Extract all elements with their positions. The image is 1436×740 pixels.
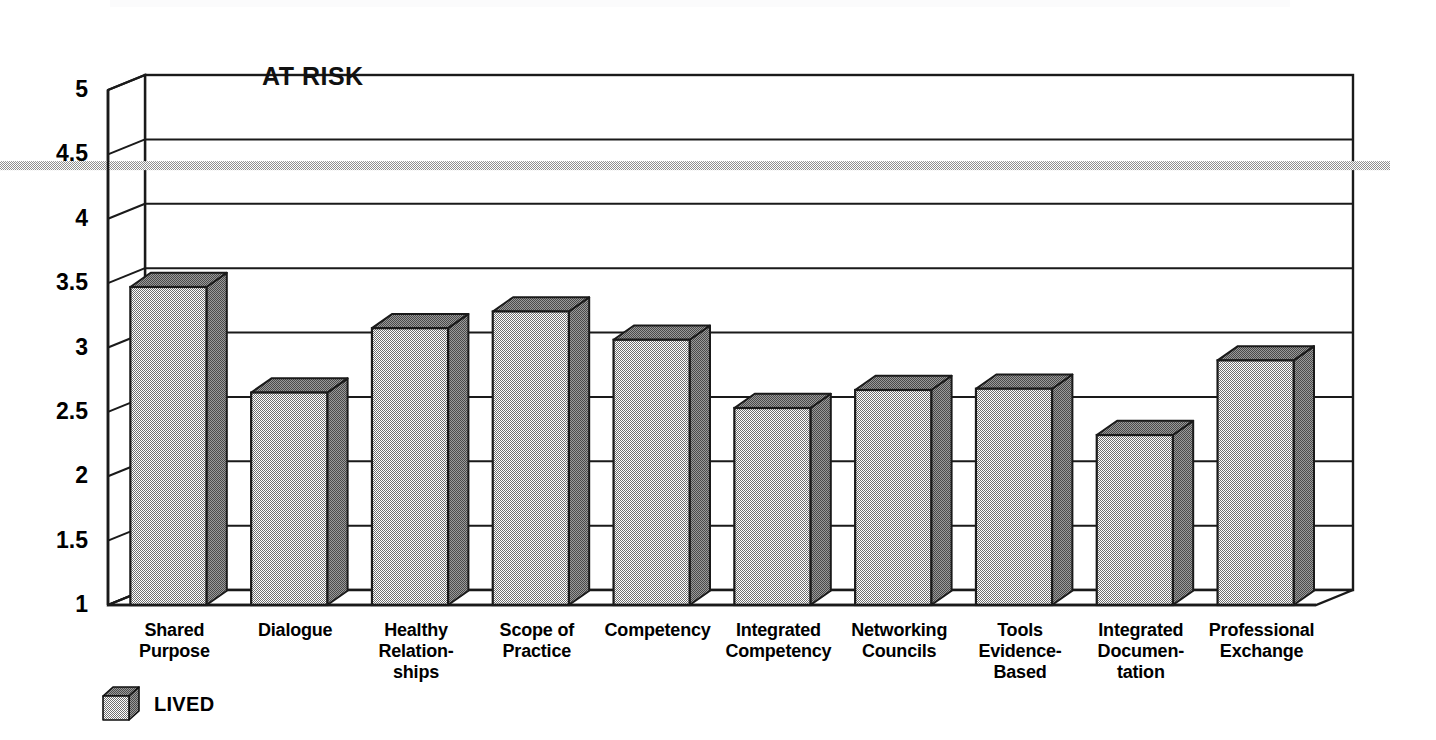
category-label-line: Evidence-	[978, 641, 1061, 661]
category-label-line: Based	[993, 662, 1046, 682]
bar-2	[251, 378, 347, 605]
y-tick-2: 2	[18, 464, 88, 487]
category-label-line: Dialogue	[258, 620, 332, 640]
y-tick-3-5: 3.5	[18, 271, 88, 294]
bar-8	[976, 374, 1072, 605]
category-label-4: Scope ofPractice	[467, 620, 606, 662]
category-label-line: Councils	[862, 641, 936, 661]
category-label-line: Scope of	[500, 620, 574, 640]
cube-3d-icon	[100, 684, 142, 724]
category-label-9: IntegratedDocumen-tation	[1071, 620, 1210, 684]
category-label-5: Competency	[588, 620, 727, 641]
category-label-line: Competency	[725, 641, 831, 661]
bar-3	[372, 314, 468, 605]
category-label-line: Purpose	[139, 641, 210, 661]
category-label-6: IntegratedCompetency	[709, 620, 848, 662]
y-tick-4-5: 4.5	[18, 142, 88, 165]
y-tick-1-5: 1.5	[18, 529, 88, 552]
bar-10	[1218, 346, 1314, 605]
category-label-line: Integrated	[1098, 620, 1183, 640]
category-label-8: ToolsEvidence-Based	[951, 620, 1090, 684]
bar-1	[130, 273, 226, 605]
category-label-2: Dialogue	[226, 620, 365, 641]
bar-5	[614, 326, 710, 605]
category-label-7: NetworkingCouncils	[830, 620, 969, 662]
bar-9	[1097, 421, 1193, 605]
category-label-line: Shared	[144, 620, 204, 640]
bar-7	[855, 376, 951, 605]
y-tick-3: 3	[18, 336, 88, 359]
y-tick-5: 5	[18, 78, 88, 101]
category-label-line: Professional	[1209, 620, 1315, 640]
category-label-3: HealthyRelation-ships	[347, 620, 486, 684]
category-label-line: Healthy	[384, 620, 448, 640]
bar-6	[734, 394, 830, 605]
category-label-10: ProfessionalExchange	[1192, 620, 1331, 662]
y-tick-2-5: 2.5	[18, 400, 88, 423]
category-label-line: Relation-	[378, 641, 453, 661]
bar-4	[493, 297, 589, 605]
category-label-line: Exchange	[1220, 641, 1303, 661]
category-label-line: Documen-	[1098, 641, 1184, 661]
chart-screenshot: 11.522.533.544.55 AT RISK SharedPurposeD…	[0, 0, 1436, 740]
chart-legend: LIVED	[100, 684, 214, 724]
y-tick-1: 1	[18, 593, 88, 616]
legend-label-lived: LIVED	[154, 693, 214, 716]
category-label-line: tation	[1117, 662, 1165, 682]
category-label-line: Tools	[997, 620, 1043, 640]
y-tick-4: 4	[18, 207, 88, 230]
at-risk-annotation: AT RISK	[262, 62, 364, 91]
category-label-line: Networking	[851, 620, 947, 640]
category-label-line: ships	[393, 662, 439, 682]
category-label-1: SharedPurpose	[105, 620, 244, 662]
category-label-line: Competency	[605, 620, 711, 640]
threshold-band	[0, 161, 1390, 170]
category-label-line: Integrated	[736, 620, 821, 640]
category-label-line: Practice	[503, 641, 571, 661]
